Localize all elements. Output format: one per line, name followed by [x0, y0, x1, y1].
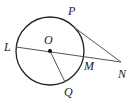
circle-diagram: L O M N P Q: [0, 0, 136, 101]
label-o: O: [44, 33, 53, 47]
secant-line-ln: [16, 47, 121, 62]
radius-oq: [50, 51, 65, 82]
label-n: N: [117, 67, 127, 81]
label-q: Q: [64, 85, 73, 99]
center-point-o: [48, 49, 52, 53]
diagram-canvas: L O M N P Q: [0, 0, 136, 101]
label-m: M: [83, 59, 95, 73]
label-p: P: [67, 4, 76, 18]
label-l: L: [3, 40, 11, 54]
